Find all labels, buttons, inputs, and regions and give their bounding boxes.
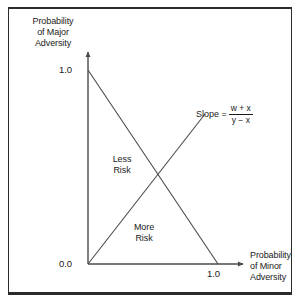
more-risk-region-label: More Risk xyxy=(123,222,165,244)
y-tick-label-top: 1.0 xyxy=(59,64,72,75)
slope-denominator: y − x xyxy=(230,115,252,125)
y-axis-title: Probability of Major Adversity xyxy=(18,16,88,49)
x-axis-title: Probability of Minor Adversity xyxy=(250,250,300,283)
x-tick-label-right: 1.0 xyxy=(207,268,220,279)
slope-fraction: w + x y − x xyxy=(229,104,253,124)
slope-annotation: Slope = w + x y − x xyxy=(196,104,253,124)
less-risk-region-label: Less Risk xyxy=(101,154,143,176)
slope-numerator: w + x xyxy=(229,104,253,114)
y-tick-label-bottom: 0.0 xyxy=(59,258,72,269)
figure-container: Probability of Major Adversity Probabili… xyxy=(0,0,300,304)
slope-equation-prefix: Slope = xyxy=(196,109,227,119)
